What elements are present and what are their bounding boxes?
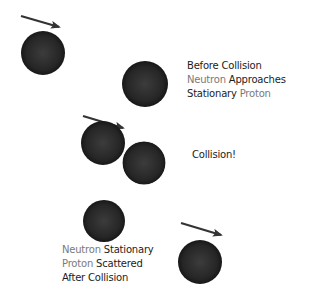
after-caption-line3: After Collision bbox=[62, 271, 154, 285]
velocity-arrow-proton-after bbox=[181, 223, 221, 235]
proton-before-particle bbox=[122, 61, 168, 107]
after-collision-caption: Neutron Stationary Proton Scattered Afte… bbox=[62, 243, 154, 285]
neutron-before-particle bbox=[21, 31, 65, 75]
proton-after-particle bbox=[178, 240, 222, 284]
stationary-word: Stationary bbox=[104, 244, 154, 255]
proton-collision-particle bbox=[122, 141, 166, 185]
after-caption-line2: Proton Scattered bbox=[62, 257, 154, 271]
before-title: Before Collision bbox=[187, 60, 262, 71]
before-collision-caption: Before Collision Neutron Approaches Stat… bbox=[187, 59, 286, 101]
neutron-collision-particle bbox=[81, 121, 125, 165]
before-caption-line3: Stationary Proton bbox=[187, 87, 286, 101]
neutron-after-particle bbox=[83, 200, 125, 242]
velocity-arrow-neutron-before bbox=[21, 16, 59, 27]
stationary-word: Stationary bbox=[187, 88, 237, 99]
neutron-word: Neutron bbox=[62, 244, 101, 255]
before-caption-line2: Neutron Approaches bbox=[187, 73, 286, 87]
after-caption-line1: Neutron Stationary bbox=[62, 243, 154, 257]
proton-word: Proton bbox=[240, 88, 271, 99]
collision-text: Collision! bbox=[192, 149, 236, 160]
scattered-word: Scattered bbox=[96, 258, 143, 269]
collision-caption: Collision! bbox=[192, 148, 236, 162]
after-collision-text: After Collision bbox=[62, 272, 128, 283]
approaches-word: Approaches bbox=[229, 74, 286, 85]
proton-word: Proton bbox=[62, 258, 93, 269]
neutron-word: Neutron bbox=[187, 74, 226, 85]
before-caption-line1: Before Collision bbox=[187, 59, 286, 73]
